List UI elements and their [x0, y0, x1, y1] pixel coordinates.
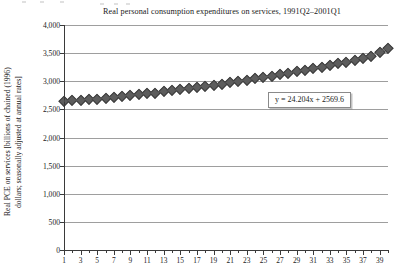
x-axis-tick-label: 35	[343, 256, 350, 265]
x-axis-tick-minor	[371, 251, 372, 253]
y-axis-title: Real PCE on services [billions of chaine…	[0, 26, 30, 258]
y-axis-tick-label: 2,500	[43, 105, 60, 114]
x-axis-tick-label: 13	[160, 256, 167, 265]
x-axis-tick-major	[313, 251, 314, 255]
x-axis-tick-minor	[388, 251, 389, 253]
series-line	[64, 25, 388, 250]
x-axis-tick-major	[363, 251, 364, 255]
x-axis-tick-minor	[222, 251, 223, 253]
y-axis-tick-label: 4,000	[43, 21, 60, 30]
y-axis-title-line2: dollars; seasonally adjusted at annual r…	[13, 26, 25, 258]
chart-figure: Real personal consumption expenditures o…	[0, 0, 401, 277]
top-cutoff-artifact	[22, 0, 142, 5]
x-axis-tick-minor	[106, 251, 107, 253]
y-axis-tick-label: 1,000	[43, 189, 60, 198]
x-axis-tick-label: 27	[276, 256, 283, 265]
x-axis-tick-label: 17	[193, 256, 200, 265]
x-axis-tick-label: 11	[144, 256, 151, 265]
x-axis-line	[64, 250, 389, 251]
x-axis-tick-major	[330, 251, 331, 255]
x-axis-tick-major	[230, 251, 231, 255]
x-axis-tick-label: 39	[376, 256, 383, 265]
x-axis-tick-label: 21	[226, 256, 233, 265]
x-axis-tick-label: 33	[326, 256, 333, 265]
x-axis-tick-label: 37	[359, 256, 366, 265]
x-axis-tick-major	[280, 251, 281, 255]
x-axis-tick-minor	[355, 251, 356, 253]
y-axis-tick-labels: 05001,0001,5002,0002,5003,0003,5004,000	[34, 25, 60, 251]
x-axis-tick-minor	[288, 251, 289, 253]
x-axis-tick-minor	[322, 251, 323, 253]
x-axis-tick-major	[147, 251, 148, 255]
x-axis-tick-major	[380, 251, 381, 255]
x-axis-tick-label: 29	[293, 256, 300, 265]
x-axis-tick-major	[114, 251, 115, 255]
x-axis-tick-major	[197, 251, 198, 255]
y-axis-tick-label: 2,000	[43, 133, 60, 142]
x-axis-tick-major	[130, 251, 131, 255]
x-axis-tick-major	[263, 251, 264, 255]
x-axis-tick-label: 3	[79, 256, 83, 265]
x-axis-tick-major	[64, 251, 65, 255]
x-axis-tick-minor	[205, 251, 206, 253]
x-axis-tick-minor	[338, 251, 339, 253]
x-axis-tick-minor	[272, 251, 273, 253]
x-axis-tick-minor	[122, 251, 123, 253]
x-axis-tick-label: 23	[243, 256, 250, 265]
x-axis-tick-label: 19	[210, 256, 217, 265]
x-axis-tick-minor	[139, 251, 140, 253]
x-axis-tick-label: 15	[177, 256, 184, 265]
x-axis-tick-label: 31	[310, 256, 317, 265]
x-axis-tick-minor	[155, 251, 156, 253]
y-axis-tick-label: 3,000	[43, 77, 60, 86]
x-axis-tick-major	[81, 251, 82, 255]
x-axis-tick-minor	[255, 251, 256, 253]
chart-title: Real personal consumption expenditures o…	[52, 7, 392, 16]
x-axis-tick-minor	[238, 251, 239, 253]
y-axis-tick-label: 500	[49, 217, 60, 226]
x-axis-tick-major	[180, 251, 181, 255]
x-axis-tick-minor	[89, 251, 90, 253]
y-axis-tick-label: 1,500	[43, 161, 60, 170]
y-axis-tick-label: 3,500	[43, 49, 60, 58]
x-axis-tick-major	[346, 251, 347, 255]
x-axis-tick-label: 1	[62, 256, 66, 265]
x-axis-tick-minor	[172, 251, 173, 253]
x-axis-tick-major	[297, 251, 298, 255]
x-axis-tick-label: 25	[260, 256, 267, 265]
x-axis-tick-label: 7	[112, 256, 116, 265]
x-axis-tick-label: 9	[129, 256, 133, 265]
x-axis-tick-major	[214, 251, 215, 255]
x-axis-tick-major	[97, 251, 98, 255]
x-axis-tick-major	[247, 251, 248, 255]
x-axis-tick-minor	[72, 251, 73, 253]
x-axis-tick-minor	[305, 251, 306, 253]
x-axis-tick-major	[164, 251, 165, 255]
x-axis-tick-minor	[189, 251, 190, 253]
x-axis-tick-label: 5	[95, 256, 99, 265]
